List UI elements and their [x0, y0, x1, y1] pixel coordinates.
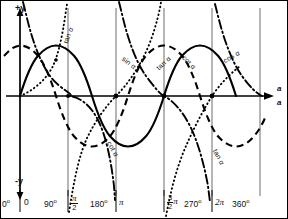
tick-deg-value-270: 270	[184, 199, 198, 209]
tick-label-deg-90: 90o	[44, 198, 57, 208]
tick-deg-value-180: 180	[90, 199, 104, 209]
tick-label-rad-180: π	[119, 198, 124, 207]
tick-deg-value-360: 360	[232, 199, 246, 209]
tick-label-rad-270: 3 2 π	[167, 194, 178, 210]
x-axis-label: a	[277, 84, 281, 93]
y-axis-negative-label: -y	[15, 176, 23, 186]
tick-label-rad-360: 2π	[215, 198, 224, 207]
chart-frame	[1, 1, 288, 219]
tick-deg-sup-360: o	[246, 198, 249, 204]
tick-deg-sup-180: o	[104, 198, 107, 204]
tick-label-deg-360: 360o	[232, 198, 250, 208]
tick-label-rad-0: 0	[24, 198, 29, 207]
tick-label-rad-90: π 2	[71, 194, 78, 212]
tick-rad-suffix-270: π	[173, 196, 178, 206]
tick-rad-den-90: 2	[71, 204, 78, 212]
tick-label-deg-0: 0o	[2, 198, 10, 208]
chart-canvas	[0, 0, 288, 219]
tick-label-deg-180: 180o	[90, 198, 108, 208]
tick-deg-sup-0: o	[7, 198, 10, 204]
tick-label-deg-270: 270o	[184, 198, 202, 208]
tick-deg-sup-270: o	[198, 198, 201, 204]
x-axis-label-secondary: a	[277, 98, 281, 107]
y-axis-positive-label: +y	[15, 3, 25, 13]
trig-functions-chart: +y -y a a 0o 0 90o π 2 180o π 270o 3 2 π…	[0, 0, 288, 219]
tick-deg-sup-90: o	[53, 198, 56, 204]
